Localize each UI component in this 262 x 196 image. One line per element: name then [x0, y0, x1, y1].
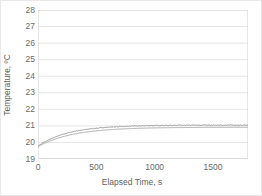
x-tick-label: 500: [76, 162, 116, 172]
y-tick-label: 25: [5, 55, 35, 64]
y-tick-label: 23: [5, 88, 35, 97]
y-tick-label: 27: [5, 22, 35, 31]
plot-area: [38, 10, 248, 159]
y-tick-label: 20: [5, 138, 35, 147]
x-axis-title: Elapsed Time, s: [1, 177, 262, 187]
y-tick-label: 26: [5, 39, 35, 48]
chart-container: Temperature, ºC 19202122232425262728 050…: [0, 0, 262, 196]
x-axis-tick-labels: 050010001500: [1, 162, 262, 174]
y-tick-label: 28: [5, 6, 35, 15]
y-tick-label: 24: [5, 72, 35, 81]
y-tick-label: 22: [5, 105, 35, 114]
data-series-layer: [38, 10, 248, 159]
x-tick-label: 0: [18, 162, 58, 172]
x-tick-label: 1500: [193, 162, 233, 172]
x-tick-label: 1000: [135, 162, 175, 172]
y-tick-label: 21: [5, 121, 35, 130]
